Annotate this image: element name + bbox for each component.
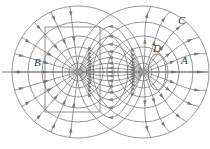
diagram-canvas: ABCD	[0, 0, 210, 149]
label-A: A	[180, 54, 188, 66]
positive-charge	[140, 69, 146, 75]
dipole-figure: ABCD	[0, 0, 210, 149]
label-C: C	[178, 14, 186, 26]
negative-charge	[75, 69, 81, 75]
label-D: D	[152, 42, 161, 54]
label-B: B	[34, 56, 41, 68]
